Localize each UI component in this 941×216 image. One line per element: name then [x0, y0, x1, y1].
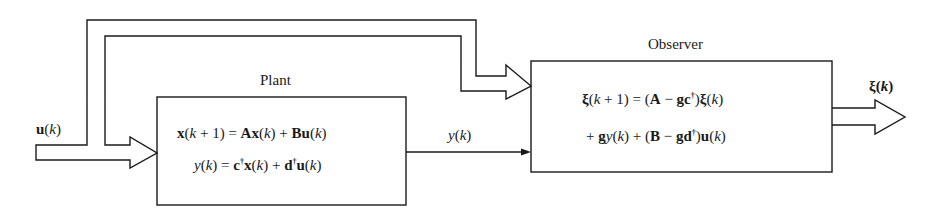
plant-box — [157, 97, 406, 205]
y-signal-arrowhead — [521, 149, 531, 156]
input-arrow-to-plant — [36, 20, 531, 168]
input-label: u(k) — [36, 122, 61, 137]
input-arg: k — [49, 121, 56, 137]
observer-title: Observer — [648, 37, 703, 52]
observer-state-equation-cont: + gy(k) + (B − gd†)u(k) — [586, 129, 726, 144]
output-label: ξ(k) — [869, 79, 893, 94]
output-arrow — [832, 100, 905, 134]
plant-state-equation: x(k + 1) = Ax(k) + Bu(k) — [177, 126, 327, 141]
observer-state-equation: ξ(k + 1) = (A − gc†)ξ(k) — [582, 92, 723, 107]
plant-output-equation: y(k) = c†x(k) + d†u(k) — [194, 158, 321, 173]
input-vector: u — [36, 121, 44, 137]
signal-label: y(k) — [448, 128, 471, 143]
diagram-wires — [0, 0, 941, 216]
plant-title: Plant — [260, 73, 291, 88]
observer-box — [531, 61, 832, 172]
